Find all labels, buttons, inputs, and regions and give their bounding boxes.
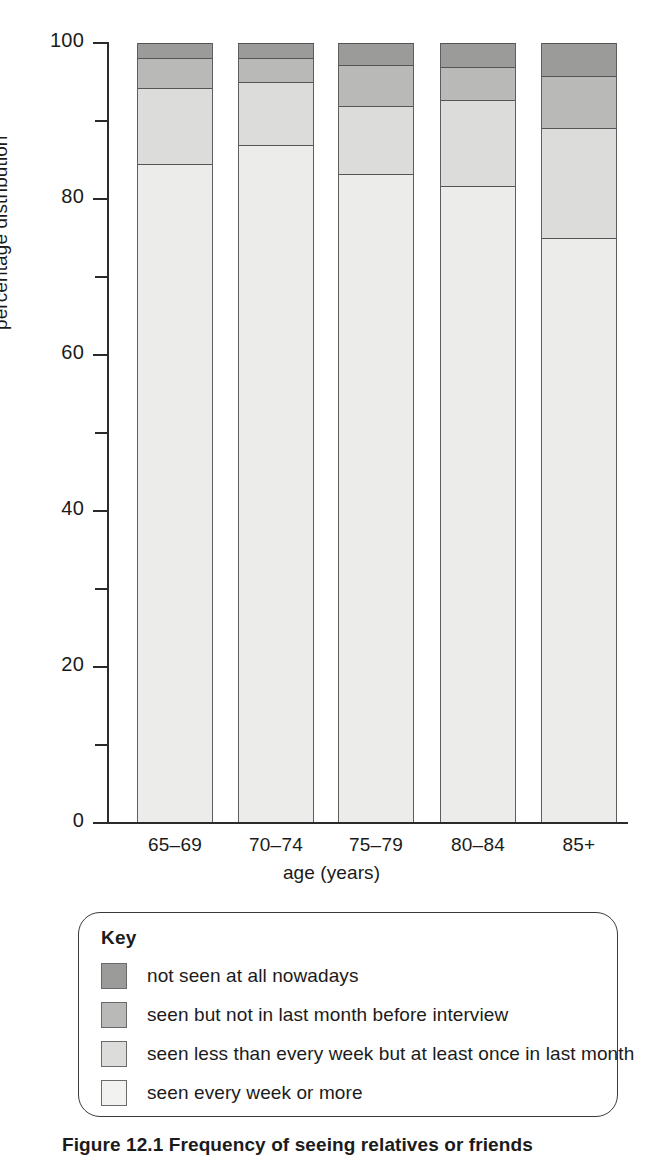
bar-segment[interactable] — [239, 145, 313, 823]
figure-stacked-bar-chart: 020406080100 percentage distribution 65–… — [0, 0, 663, 1158]
y-tick-label: 20 — [61, 653, 84, 676]
legend-title: Key — [101, 927, 136, 949]
figure-caption: Figure 12.1 Frequency of seeing relative… — [62, 1134, 662, 1156]
y-tick-major — [93, 666, 108, 668]
bar-stack[interactable] — [541, 43, 617, 823]
legend-swatch — [101, 1080, 127, 1106]
legend-item-label: seen but not in last month before interv… — [147, 1004, 508, 1026]
y-tick-minor — [95, 432, 108, 434]
bar-segment[interactable] — [542, 128, 616, 238]
y-tick-minor — [95, 276, 108, 278]
bar-segment[interactable] — [441, 100, 515, 186]
x-tick-label: 70–74 — [238, 834, 314, 856]
y-tick-major — [93, 42, 108, 44]
legend-item-label: not seen at all nowadays — [147, 965, 359, 987]
bar-segment[interactable] — [339, 43, 413, 65]
bar-segment[interactable] — [542, 238, 616, 823]
x-tick-label: 75–79 — [338, 834, 414, 856]
bar-segment[interactable] — [239, 43, 313, 58]
bar-segment[interactable] — [239, 58, 313, 82]
y-tick-label: 0 — [73, 809, 84, 832]
legend-swatch — [101, 1041, 127, 1067]
legend-swatch — [101, 1002, 127, 1028]
y-axis-ticks: 020406080100 — [0, 0, 108, 866]
legend-item[interactable]: seen less than every week but at least o… — [101, 1037, 634, 1071]
bar-segment[interactable] — [542, 76, 616, 128]
x-tick-label: 65–69 — [137, 834, 213, 856]
legend-item[interactable]: seen but not in last month before interv… — [101, 998, 508, 1032]
y-tick-minor — [95, 588, 108, 590]
y-tick-major — [93, 198, 108, 200]
legend-key-box: Key not seen at all nowadaysseen but not… — [78, 912, 618, 1117]
bar-stack[interactable] — [238, 43, 314, 823]
legend-item-label: seen every week or more — [147, 1082, 363, 1104]
y-tick-minor — [95, 120, 108, 122]
legend-swatch — [101, 963, 127, 989]
bar-stack[interactable] — [338, 43, 414, 823]
bar-segment[interactable] — [441, 67, 515, 100]
bar-segment[interactable] — [138, 164, 212, 823]
bar-segment[interactable] — [339, 65, 413, 106]
y-tick-label: 100 — [50, 29, 84, 52]
y-tick-major — [93, 510, 108, 512]
bar-segment[interactable] — [138, 88, 212, 164]
x-axis-line — [94, 822, 628, 824]
bar-stack[interactable] — [440, 43, 516, 823]
bar-segment[interactable] — [441, 186, 515, 823]
bar-stack[interactable] — [137, 43, 213, 823]
bar-segment[interactable] — [441, 43, 515, 67]
y-tick-label: 60 — [61, 341, 84, 364]
y-tick-minor — [95, 744, 108, 746]
bar-segment[interactable] — [239, 82, 313, 145]
bar-segment[interactable] — [138, 43, 212, 58]
legend-item-label: seen less than every week but at least o… — [147, 1043, 634, 1065]
legend-item[interactable]: not seen at all nowadays — [101, 959, 359, 993]
y-tick-major — [93, 354, 108, 356]
y-tick-label: 40 — [61, 497, 84, 520]
bar-segment[interactable] — [339, 106, 413, 174]
bar-segment[interactable] — [138, 58, 212, 88]
bar-segment[interactable] — [339, 174, 413, 823]
y-axis-title: percentage distribution — [0, 90, 12, 330]
x-tick-label: 80–84 — [440, 834, 516, 856]
x-tick-label: 85+ — [541, 834, 617, 856]
x-axis-title: age (years) — [0, 862, 663, 884]
legend-item[interactable]: seen every week or more — [101, 1076, 363, 1110]
plot-area — [108, 43, 628, 823]
bar-segment[interactable] — [542, 43, 616, 76]
y-tick-label: 80 — [61, 185, 84, 208]
